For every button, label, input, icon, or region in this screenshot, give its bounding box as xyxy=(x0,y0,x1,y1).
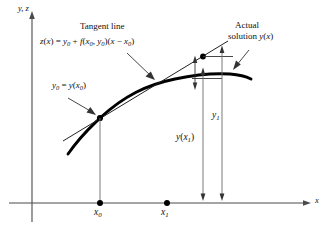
x0-axis-dot xyxy=(97,200,103,206)
y-axis-label: y, z xyxy=(18,4,29,14)
initial-value-label: y0 = y(x0) xyxy=(52,80,86,91)
actual-solution-leader xyxy=(233,50,249,70)
actual-solution-label-line1: Actual xyxy=(235,20,259,30)
actual-solution-curve xyxy=(68,74,251,154)
local-error-arrow xyxy=(193,56,198,91)
x1-tick-label: x1 xyxy=(161,207,169,219)
tangent-line-equation: z(x) = y0 + f(x0, y0)(x − x0) xyxy=(40,36,134,47)
euler-method-diagram: y, z x Tangent line z(x) = y0 + f(x0, y0… xyxy=(0,0,332,229)
initial-value-leader xyxy=(68,98,96,115)
diagram-canvas xyxy=(0,0,332,229)
x1-axis-dot xyxy=(164,200,170,206)
tangent-line-title: Tangent line xyxy=(80,21,125,31)
exact-value-label: y(x1) xyxy=(176,132,194,144)
x-axis-label: x xyxy=(315,196,319,206)
x0-tick-label: x0 xyxy=(94,207,102,219)
yx1-measure-arrow xyxy=(201,68,206,202)
euler-value-label: y1 xyxy=(212,110,220,122)
x-axis-arrowhead xyxy=(303,200,311,205)
y1-measure-arrow xyxy=(220,46,225,202)
y-axis-arrowhead xyxy=(29,11,35,19)
tangent-label-leader xyxy=(127,53,155,80)
actual-solution-label-line2: solution y(x) xyxy=(228,31,273,41)
